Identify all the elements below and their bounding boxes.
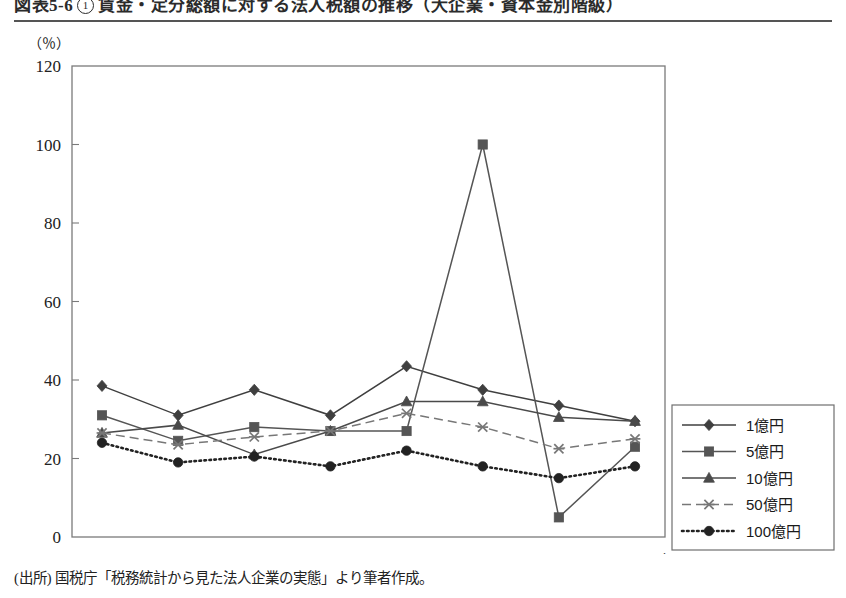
series-point-marker (477, 423, 488, 432)
figure-page: 図表5-61賃金・定分総額に対する法人税額の推移（大企業・資本金別階級） （％）… (0, 0, 846, 598)
x-axis-tick-label: 2010 (542, 551, 576, 554)
x-axis-tick-label: 2007 (313, 551, 348, 554)
chart-container: （％） 020406080100120200420052006200720082… (0, 24, 846, 554)
series-point-marker (630, 442, 639, 451)
legend-label: 10億円 (746, 470, 793, 487)
series-point-marker (326, 462, 335, 471)
series-point-marker (553, 444, 564, 453)
series-point-marker (249, 432, 260, 441)
legend-label: 5億円 (746, 443, 784, 460)
chart-legend: 1億円5億円10億円50億円100億円 (672, 405, 834, 550)
series-point-marker (402, 361, 412, 372)
series-point-marker (97, 411, 106, 420)
legend-marker-circle (704, 526, 713, 535)
x-axis-unit-label: (年) (656, 553, 681, 554)
series-point-marker (325, 410, 335, 421)
y-axis-tick-label: 60 (44, 293, 61, 312)
series-point-marker (478, 140, 487, 149)
series-point-marker (402, 446, 411, 455)
y-axis-tick-label: 40 (44, 371, 61, 390)
chart-axes: 0204060801001202004200520062007200820092… (36, 57, 681, 554)
series-point-marker (173, 458, 182, 467)
x-axis-tick-label: 2008 (390, 551, 424, 554)
line-chart: 0204060801001202004200520062007200820092… (0, 24, 846, 554)
series-point-marker (97, 438, 106, 447)
figure-title: 図表5-61賃金・定分総額に対する法人税額の推移（大企業・資本金別階級） (14, 0, 623, 16)
series-point-marker (401, 409, 412, 418)
y-axis-tick-label: 0 (53, 528, 62, 547)
series-point-marker (250, 452, 259, 461)
figure-title-strip: 図表5-61賃金・定分総額に対する法人税額の推移（大企業・資本金別階級） (0, 0, 846, 22)
series-point-marker (554, 513, 563, 522)
figure-title-number: 1 (77, 0, 94, 14)
x-axis-tick-label: 2006 (237, 551, 271, 554)
legend-label: 1億円 (746, 417, 784, 434)
y-axis-tick-label: 80 (44, 214, 61, 233)
series-point-marker (173, 420, 184, 430)
y-axis-tick-label: 100 (36, 136, 62, 155)
legend-label: 100億円 (746, 523, 801, 540)
chart-series-layer (97, 140, 641, 522)
legend-marker-square (704, 447, 713, 456)
series-point-marker (554, 473, 563, 482)
x-axis-tick-label: 2004 (85, 551, 120, 554)
figure-title-prefix: 図表5-6 (14, 0, 73, 15)
x-axis-tick-label: 2005 (161, 551, 195, 554)
figure-title-text: 賃金・定分総額に対する法人税額の推移（大企業・資本金別階級） (98, 0, 623, 15)
source-note: (出所) 国税庁「税務統計から見た法人企業の実態」より筆者作成。 (14, 566, 433, 587)
series-point-marker (478, 384, 488, 395)
series-point-marker (250, 423, 259, 432)
series-point-marker (554, 400, 564, 411)
series-point-marker (97, 380, 107, 391)
series-point-marker (478, 462, 487, 471)
y-axis-tick-label: 120 (36, 57, 62, 76)
series-point-marker (402, 426, 411, 435)
y-axis-tick-label: 20 (44, 450, 61, 469)
series-point-marker (249, 384, 259, 395)
title-divider (14, 20, 832, 22)
series-line (102, 366, 635, 421)
legend-label: 50億円 (746, 496, 793, 513)
x-axis-tick-label: 2011 (618, 551, 651, 554)
series-point-marker (630, 462, 639, 471)
x-axis-tick-label: 2009 (466, 551, 500, 554)
